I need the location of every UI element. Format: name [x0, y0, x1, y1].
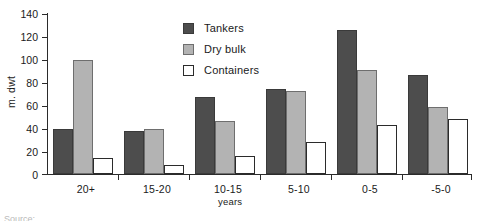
x-tick-label-10-15: 10-15	[195, 184, 261, 195]
chart-caption: Source:	[4, 214, 474, 221]
bar-containers-10-15	[235, 156, 255, 174]
y-axis-line	[47, 13, 48, 175]
bar-drybulk-minus5-0	[428, 107, 448, 174]
y-tick-label-20: 20	[26, 147, 38, 157]
x-tick-mark-3	[260, 175, 261, 180]
y-tick-label-40: 40	[26, 124, 38, 134]
x-tick-label-5-10: 5-10	[266, 184, 332, 195]
legend-label-dry-bulk: Dry bulk	[204, 44, 246, 55]
bar-group-5-10	[266, 14, 326, 174]
bar-drybulk-0-5	[357, 70, 377, 174]
bar-tankers-10-15	[195, 97, 215, 174]
bar-drybulk-20plus	[73, 60, 93, 174]
bar-group-20plus	[53, 14, 113, 174]
x-tick-mark-5	[402, 175, 403, 180]
x-tick-mark-6	[471, 175, 472, 180]
bar-group-0-5	[337, 14, 397, 174]
x-axis-title: years	[218, 196, 242, 207]
bar-tankers-minus5-0	[408, 75, 428, 174]
bar-tankers-0-5	[337, 30, 357, 174]
x-tick-mark-1	[118, 175, 119, 180]
y-tick-mark-100	[42, 60, 47, 61]
legend-label-containers: Containers	[204, 65, 259, 76]
y-tick-mark-20	[42, 152, 47, 153]
y-axis-title: m. dwt	[5, 67, 17, 117]
legend-item-containers: Containers	[183, 60, 259, 81]
y-tick-mark-0	[42, 174, 47, 175]
legend-swatch-containers-icon	[183, 65, 194, 76]
legend-swatch-tankers-icon	[183, 23, 194, 34]
bar-group-15-20	[124, 14, 184, 174]
y-tick-mark-80	[42, 83, 47, 84]
y-tick-mark-120	[42, 37, 47, 38]
bar-drybulk-5-10	[286, 91, 306, 174]
bar-chart: 140 120 100 80 60 40 20 0 m. dwt	[0, 0, 477, 221]
x-tick-label-15-20: 15-20	[124, 184, 190, 195]
bar-containers-0-5	[377, 125, 397, 174]
bar-tankers-20plus	[53, 129, 73, 174]
bar-containers-15-20	[164, 165, 184, 174]
legend-item-dry-bulk: Dry bulk	[183, 39, 259, 60]
bar-containers-5-10	[306, 142, 326, 174]
x-tick-label-minus5-0: -5-0	[408, 184, 474, 195]
x-tick-mark-4	[331, 175, 332, 180]
bar-drybulk-10-15	[215, 121, 235, 174]
x-tick-label-20plus: 20+	[53, 184, 119, 195]
y-tick-label-0: 0	[32, 170, 38, 180]
y-tick-mark-60	[42, 106, 47, 107]
x-tick-label-0-5: 0-5	[337, 184, 403, 195]
bar-drybulk-15-20	[144, 129, 164, 174]
y-tick-mark-140	[42, 14, 47, 15]
y-tick-label-140: 140	[20, 9, 38, 19]
y-tick-label-100: 100	[20, 55, 38, 65]
y-tick-label-120: 120	[20, 32, 38, 42]
y-tick-label-60: 60	[26, 101, 38, 111]
y-tick-label-80: 80	[26, 78, 38, 88]
x-tick-mark-2	[189, 175, 190, 180]
legend-label-tankers: Tankers	[204, 23, 244, 34]
y-tick-mark-40	[42, 129, 47, 130]
bar-tankers-5-10	[266, 89, 286, 174]
bar-tankers-15-20	[124, 131, 144, 174]
chart-legend: Tankers Dry bulk Containers	[183, 18, 259, 81]
legend-swatch-dry-bulk-icon	[183, 44, 194, 55]
bar-containers-minus5-0	[448, 119, 468, 174]
legend-item-tankers: Tankers	[183, 18, 259, 39]
bar-group-minus5-0	[408, 14, 468, 174]
bar-containers-20plus	[93, 158, 113, 174]
